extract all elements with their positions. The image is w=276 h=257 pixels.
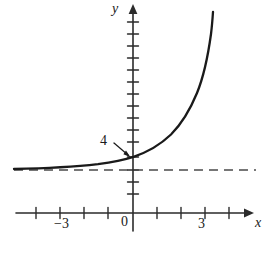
graph-canvas [0,0,276,257]
x-axis-label: x [255,216,261,230]
x-tick-label-neg3: −3 [54,217,69,231]
origin-tick-label: 0 [121,215,128,229]
y-intercept-value-label: 4 [100,134,107,148]
math-graph-figure: y x 0 −3 3 4 [0,0,276,257]
x-axis-group [16,208,254,219]
y-intercept-annotation-arrow [114,143,131,157]
x-tick-label-pos3: 3 [198,217,205,231]
y-axis-arrowhead [129,4,138,14]
x-axis-arrowhead [244,209,254,218]
y-axis-group [128,4,139,231]
exponential-curve-path [14,12,213,169]
y-axis-label: y [112,2,118,16]
